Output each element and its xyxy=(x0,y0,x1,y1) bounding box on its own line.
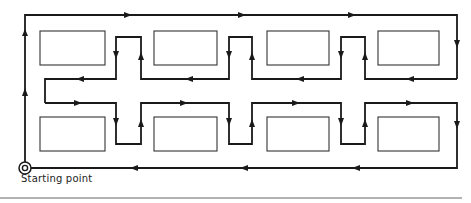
arrow-left-icon xyxy=(406,76,414,82)
starting-point-label: Starting point xyxy=(21,173,92,184)
arrow-left-icon xyxy=(76,76,84,82)
arrow-right-icon xyxy=(180,100,188,106)
arrow-down-icon xyxy=(338,51,344,59)
arrow-up-icon xyxy=(22,88,28,96)
block-upper-2 xyxy=(154,31,217,65)
arrow-up-icon xyxy=(22,29,28,36)
blocks xyxy=(40,31,439,151)
arrow-right-icon xyxy=(292,100,300,106)
arrow-right-icon xyxy=(348,12,356,18)
block-lower-4 xyxy=(378,117,439,151)
arrow-left-icon xyxy=(296,76,304,82)
arrow-up-icon xyxy=(249,119,255,127)
arrow-down-icon xyxy=(226,51,232,59)
arrow-down-icon xyxy=(226,118,232,126)
arrow-left-icon xyxy=(130,165,138,171)
arrow-down-icon xyxy=(454,40,460,48)
block-upper-4 xyxy=(378,31,439,65)
arrow-left-icon xyxy=(352,165,360,171)
arrow-up-icon xyxy=(138,119,144,127)
block-lower-1 xyxy=(40,117,105,151)
arrow-down-icon xyxy=(113,51,119,59)
arrow-down-icon xyxy=(454,121,460,129)
arrow-right-icon xyxy=(238,12,246,18)
arrow-down-icon xyxy=(338,118,344,126)
arrow-right-icon xyxy=(124,12,132,18)
block-lower-2 xyxy=(154,117,217,151)
arrow-left-icon xyxy=(240,165,248,171)
block-upper-1 xyxy=(40,31,105,65)
direction-arrows xyxy=(22,12,460,171)
arrow-right-icon xyxy=(74,100,82,106)
route-path xyxy=(25,15,457,168)
arrow-up-icon xyxy=(138,52,144,60)
arrow-right-icon xyxy=(406,100,414,106)
block-upper-3 xyxy=(267,31,329,65)
arrow-left-icon xyxy=(185,76,193,82)
arrow-up-icon xyxy=(362,52,368,60)
block-lower-3 xyxy=(267,117,329,151)
arrow-up-icon xyxy=(362,119,368,127)
arrow-down-icon xyxy=(113,118,119,126)
arrow-up-icon xyxy=(249,52,255,60)
